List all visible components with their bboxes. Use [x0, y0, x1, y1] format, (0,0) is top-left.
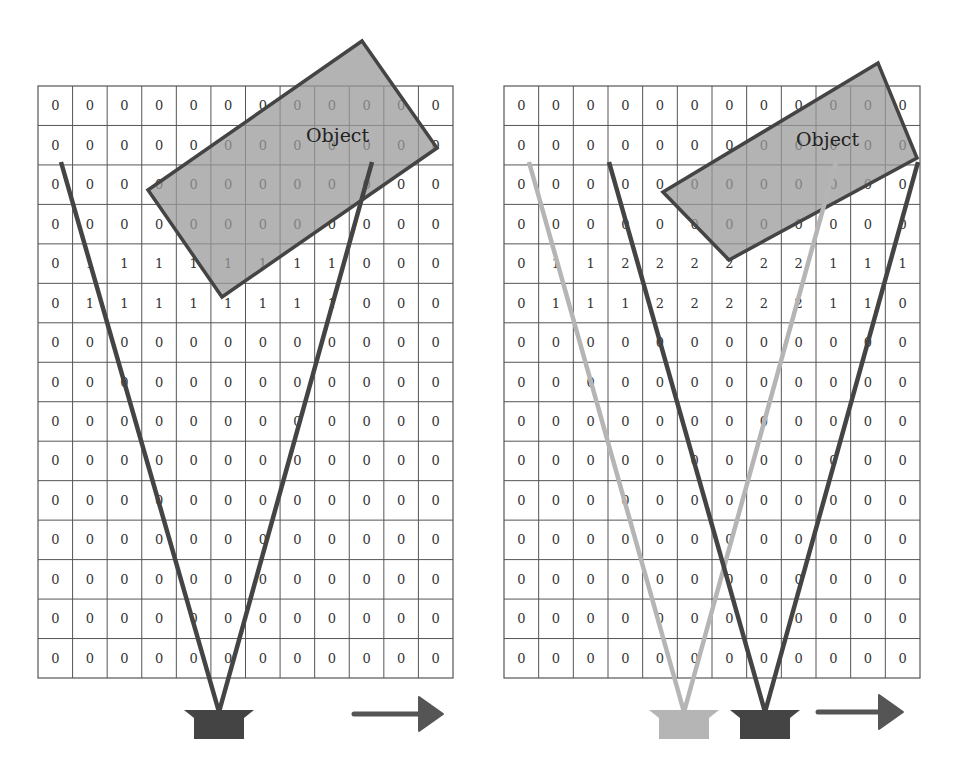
grid-cell-value: 0: [51, 375, 59, 390]
grid-cell-value: 0: [155, 217, 163, 232]
grid-cell-value: 0: [691, 335, 699, 350]
grid-cell-value: 0: [432, 493, 440, 508]
grid-cell-value: 2: [795, 256, 803, 271]
grid-cell-value: 1: [328, 256, 336, 271]
grid-cell-value: 0: [86, 177, 94, 192]
grid-cell-value: 1: [587, 256, 595, 271]
grid-cell-value: 0: [760, 651, 768, 666]
grid-cell-value: 0: [656, 177, 664, 192]
grid-cell-value: 0: [432, 453, 440, 468]
grid-cell-value: 0: [51, 256, 59, 271]
grid-cell-value: 0: [864, 375, 872, 390]
grid-cell-value: 0: [224, 414, 232, 429]
grid-cell-value: 0: [725, 493, 733, 508]
grid-cell-value: 1: [293, 256, 301, 271]
grid-cell-value: 0: [86, 138, 94, 153]
grid-cell-value: 0: [432, 375, 440, 390]
grid-cell-value: 0: [397, 572, 405, 587]
grid-cell-value: 0: [587, 572, 595, 587]
grid-cell-value: 0: [552, 453, 560, 468]
grid-cell-value: 0: [621, 375, 629, 390]
grid-cell-value: 0: [86, 453, 94, 468]
grid-cell-value: 0: [86, 493, 94, 508]
grid-cell-value: 0: [795, 453, 803, 468]
grid-cell-value: 0: [899, 177, 907, 192]
grid-cell-value: 1: [621, 296, 629, 311]
grid-cell-value: 1: [86, 296, 94, 311]
grid-cell-value: 0: [795, 493, 803, 508]
grid-cell-value: 0: [587, 651, 595, 666]
grid-cell-value: 0: [552, 532, 560, 547]
grid-cell-value: 0: [725, 414, 733, 429]
grid-cell-value: 0: [864, 572, 872, 587]
grid-cell-value: 0: [397, 256, 405, 271]
grid-cell-value: 0: [691, 414, 699, 429]
grid-cell-value: 0: [155, 98, 163, 113]
grid-cell-value: 0: [224, 98, 232, 113]
grid-cell-value: 0: [86, 572, 94, 587]
grid-cell-value: 0: [224, 375, 232, 390]
grid-cell-value: 0: [224, 572, 232, 587]
grid-cell-value: 0: [899, 414, 907, 429]
grid-cell-value: 0: [51, 532, 59, 547]
grid-cell-value: 0: [691, 493, 699, 508]
grid-cell-value: 0: [293, 532, 301, 547]
grid-cell-value: 0: [362, 453, 370, 468]
grid-cell-value: 0: [587, 217, 595, 232]
grid-cell-value: 0: [293, 651, 301, 666]
grid-cell-value: 0: [552, 572, 560, 587]
grid-cell-value: 0: [362, 256, 370, 271]
grid-cell-value: 0: [189, 98, 197, 113]
grid-cell-value: 0: [552, 375, 560, 390]
grid-cell-value: 0: [432, 335, 440, 350]
grid-cell-value: 0: [51, 453, 59, 468]
grid-cell-value: 0: [587, 453, 595, 468]
grid-cell-value: 0: [552, 414, 560, 429]
grid-cell-value: 0: [120, 98, 128, 113]
grid-cell-value: 0: [432, 532, 440, 547]
grid-cell-value: 1: [864, 296, 872, 311]
grid-cell-value: 1: [293, 296, 301, 311]
grid-cell-value: 0: [829, 375, 837, 390]
grid-cell-value: 0: [517, 138, 525, 153]
grid-cell-value: 0: [760, 335, 768, 350]
grid-cell-value: 0: [120, 217, 128, 232]
panel-left: 0000000000000000000000000000000000000000…: [38, 41, 453, 739]
grid-cell-value: 0: [795, 532, 803, 547]
grid-cell-value: 0: [397, 335, 405, 350]
grid-cell-value: 0: [86, 335, 94, 350]
grid-cell-value: 0: [829, 532, 837, 547]
grid-cell-value: 0: [691, 138, 699, 153]
grid-cell-value: 0: [397, 296, 405, 311]
grid-cell-value: 0: [51, 217, 59, 232]
grid-cell-value: 0: [189, 651, 197, 666]
grid-cell-value: 0: [120, 453, 128, 468]
grid-cell-value: 0: [397, 532, 405, 547]
grid-cell-value: 0: [691, 375, 699, 390]
sensor-cap-icon: [649, 710, 719, 718]
grid-cell-value: 0: [259, 572, 267, 587]
sensor-body-icon: [194, 718, 244, 739]
grid-cell-value: 0: [293, 611, 301, 626]
grid-cell-value: 0: [864, 611, 872, 626]
grid-cell-value: 0: [189, 493, 197, 508]
grid-cell-value: 0: [621, 138, 629, 153]
grid-cell-value: 0: [587, 414, 595, 429]
grid-cell-value: 0: [259, 611, 267, 626]
grid-cell-value: 0: [328, 611, 336, 626]
grid-cell-value: 0: [725, 611, 733, 626]
grid-cell-value: 0: [829, 414, 837, 429]
grid-cell-value: 0: [432, 414, 440, 429]
grid-cell-value: 0: [656, 453, 664, 468]
grid-cell-value: 0: [691, 611, 699, 626]
grid-cell-value: 1: [259, 296, 267, 311]
grid-cell-value: 0: [189, 138, 197, 153]
grid-cell-value: 0: [362, 414, 370, 429]
grid-cell-value: 0: [293, 375, 301, 390]
grid-cell-value: 0: [517, 375, 525, 390]
grid-cell-value: 1: [864, 256, 872, 271]
grid-cell-value: 0: [621, 453, 629, 468]
grid-cell-value: 0: [587, 493, 595, 508]
grid-cell-value: 0: [760, 453, 768, 468]
grid-cell-value: 0: [86, 651, 94, 666]
